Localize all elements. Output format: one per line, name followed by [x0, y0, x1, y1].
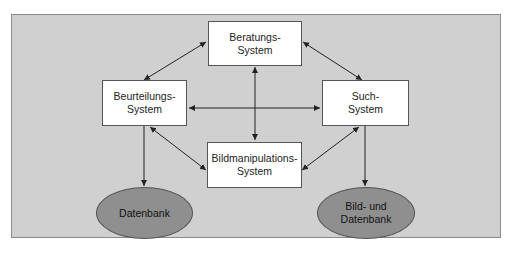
node-beurteilungs-system: Beurteilungs- System — [102, 80, 187, 126]
node-label: Beratungs- System — [229, 31, 280, 57]
node-label: Bildmanipulations- System — [212, 152, 298, 178]
node-label: Beurteilungs- System — [114, 90, 176, 116]
node-datenbank: Datenbank — [96, 187, 193, 239]
node-such-system: Such- System — [322, 80, 409, 126]
node-bildmanipulations-system: Bildmanipulations- System — [207, 142, 302, 188]
node-label: Such- System — [348, 90, 383, 116]
node-label: Bild- und Datenbank — [341, 200, 392, 226]
node-bild-und-datenbank: Bild- und Datenbank — [317, 187, 415, 239]
node-label: Datenbank — [119, 207, 170, 220]
node-beratungs-system: Beratungs- System — [208, 21, 302, 66]
